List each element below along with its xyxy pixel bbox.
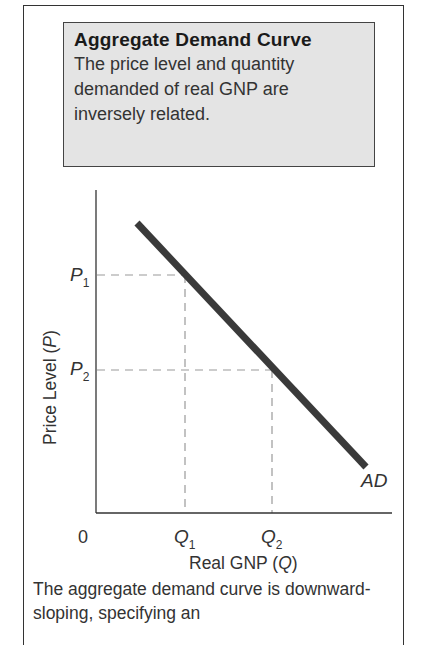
p1-label: P1 <box>70 264 90 290</box>
p2-label: P2 <box>70 358 90 384</box>
reference-lines <box>97 275 272 513</box>
q2-label: Q2 <box>261 526 283 552</box>
ad-curve-label: AD <box>360 470 388 491</box>
axes <box>96 190 392 513</box>
origin-label: 0 <box>78 527 88 547</box>
y-axis-title: Price Level (P) <box>40 330 60 445</box>
q1-label: Q1 <box>174 526 196 552</box>
figure-caption: The aggregate demand curve is downward-s… <box>33 577 403 625</box>
x-axis-title: Real GNP (Q) <box>189 553 298 573</box>
ad-curve <box>137 223 366 467</box>
